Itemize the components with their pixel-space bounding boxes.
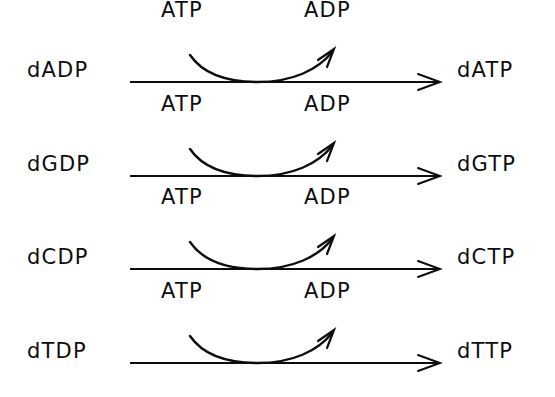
cofactor-curved-arrow-path bbox=[190, 146, 332, 176]
cofactor-in-label: ATP bbox=[161, 281, 203, 302]
cofactor-in-label: ATP bbox=[161, 0, 203, 21]
product-label: dGTP bbox=[457, 154, 516, 175]
substrate-label: dGDP bbox=[27, 154, 90, 175]
reaction-diagram: ATP ADP dADP dATP ATP ADP dGDP dGTP ATP … bbox=[0, 0, 555, 397]
reaction-row: ATP ADP dCDP dCTP bbox=[0, 187, 555, 281]
cofactor-in-label: ATP bbox=[161, 187, 203, 208]
cofactor-out-label: ADP bbox=[304, 281, 351, 302]
cofactor-curved-arrow-path bbox=[190, 239, 332, 269]
cofactor-in-label: ATP bbox=[161, 94, 203, 115]
cofactor-out-label: ADP bbox=[304, 94, 351, 115]
product-label: dATP bbox=[457, 60, 513, 81]
cofactor-out-label: ADP bbox=[304, 0, 351, 21]
cofactor-curved-arrow-path bbox=[190, 333, 332, 363]
reaction-row: ATP ADP dTDP dTTP bbox=[0, 281, 555, 375]
reaction-row: ATP ADP dADP dATP bbox=[0, 0, 555, 94]
product-label: dCTP bbox=[457, 247, 515, 268]
cofactor-out-label: ADP bbox=[304, 187, 351, 208]
reaction-row: ATP ADP dGDP dGTP bbox=[0, 94, 555, 188]
product-label: dTTP bbox=[457, 341, 513, 362]
substrate-label: dTDP bbox=[27, 341, 87, 362]
cofactor-curved-arrow-path bbox=[190, 52, 332, 82]
substrate-label: dCDP bbox=[27, 247, 89, 268]
substrate-label: dADP bbox=[27, 60, 88, 81]
